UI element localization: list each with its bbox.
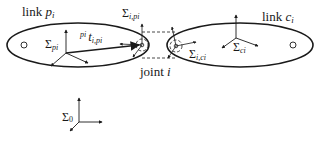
link-c-end-hole (290, 42, 296, 48)
frame-world-label: Σ0 (62, 110, 73, 124)
frame-i-p-axes (120, 24, 144, 57)
frame-c-axes (222, 15, 258, 48)
frame-p-label: Σpi (45, 37, 58, 52)
link-p-label: link pi (22, 4, 55, 20)
link-p-body (7, 23, 149, 67)
joint-label: joint i (139, 64, 171, 79)
frame-i-c-label: Σi,ci (189, 47, 206, 62)
frame-i-p-label: Σi,pi (122, 6, 139, 21)
frame-c-label: Σci (233, 40, 246, 55)
link-c-label: link ci (262, 9, 294, 25)
vector-t-arrow (66, 45, 139, 53)
vector-t-label: piti,pi (79, 29, 102, 45)
frame-world-axes (70, 98, 102, 131)
link-p-end-hole (21, 42, 27, 48)
kinematic-link-diagram: link pi link ci Σpi Σci piti,pi Σi,pi Σi… (0, 0, 315, 141)
